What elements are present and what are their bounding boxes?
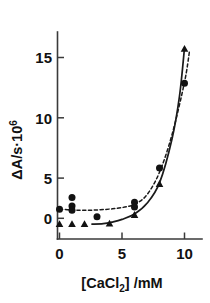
x-tick-label-0: 0 (55, 245, 63, 262)
chart-plot-area: 15 10 5 0 0 5 10 ΔA/s·106 [CaCl2] /mM (0, 0, 210, 303)
fit-curves-group (60, 48, 190, 224)
data-point-circle (56, 206, 63, 213)
x-tick-marks (60, 233, 185, 240)
y-axis-title: ΔA/s·106 (8, 120, 25, 180)
x-axis-title: [CaCl2] /mM (81, 275, 162, 294)
data-point-triangle (68, 220, 76, 227)
x-axis-title-main: [CaCl (81, 275, 119, 291)
y-tick-label-15: 15 (35, 49, 52, 66)
data-point-circle (69, 207, 76, 214)
x-tick-labels: 0 5 10 (55, 245, 193, 262)
data-point-circle (69, 194, 76, 201)
x-tick-label-5: 5 (118, 245, 126, 262)
axes-group (58, 32, 203, 239)
data-point-circle (94, 213, 101, 220)
data-point-triangle (81, 220, 89, 227)
y-tick-label-10: 10 (35, 110, 52, 127)
chart-figure: 15 10 5 0 0 5 10 ΔA/s·106 [CaCl2] /mM (0, 0, 210, 303)
y-tick-label-5: 5 (44, 170, 52, 187)
data-point-circle (156, 164, 163, 171)
data-point-triangle (156, 180, 164, 187)
dashed-fit-curve (60, 51, 190, 210)
data-point-triangle (181, 45, 189, 52)
svg-text:ΔA/s·106: ΔA/s·106 (8, 120, 25, 180)
svg-text:[CaCl2] /mM: [CaCl2] /mM (81, 275, 162, 294)
y-tick-marks (58, 58, 65, 219)
data-point-circle (131, 204, 138, 211)
solid-fit-curve (92, 48, 185, 224)
y-tick-label-0: 0 (44, 210, 52, 227)
y-axis-title-main: ΔA/s·10 (9, 126, 25, 180)
y-tick-labels: 15 10 5 0 (35, 49, 52, 227)
data-point-circle (181, 80, 188, 87)
y-axis-title-exponent: 6 (8, 120, 19, 126)
series-triangles-markers (56, 45, 189, 227)
x-axis-title-tail: ] /mM (125, 275, 163, 291)
x-tick-label-10: 10 (176, 245, 193, 262)
